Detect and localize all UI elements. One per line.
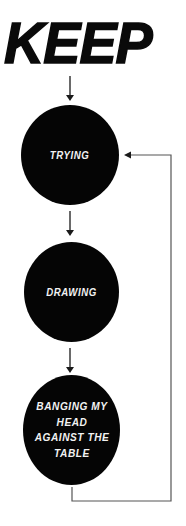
node-trying: TRYING xyxy=(21,105,119,205)
arrow-trying-to-drawing xyxy=(66,211,74,236)
node-label: DRAWING xyxy=(46,285,97,300)
diagram-title: KEEP xyxy=(4,14,138,72)
arrow-drawing-to-banging xyxy=(66,348,74,373)
node-banging-head: BANGING MY HEAD AGAINST THE TABLE xyxy=(23,375,120,485)
node-label: BANGING MY HEAD AGAINST THE TABLE xyxy=(33,399,110,461)
node-drawing: DRAWING xyxy=(24,242,119,342)
arrow-keep-to-trying xyxy=(66,76,74,101)
node-label: TRYING xyxy=(50,148,90,163)
